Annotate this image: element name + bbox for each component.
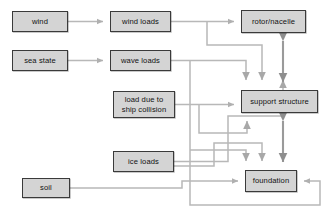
- node-ship-collision[interactable]: load due to ship collision: [113, 91, 175, 118]
- node-foundation-label: foundation: [251, 176, 291, 185]
- edge-wave-loads-drop-foundation: [190, 150, 246, 161]
- node-ice-loads[interactable]: ice loads: [113, 151, 174, 172]
- edge-ship-collision-to-foundation: [199, 105, 247, 133]
- edge-ice-loads-to-foundation: [174, 143, 262, 166]
- node-ship-collision-label: load due to ship collision: [120, 95, 168, 113]
- node-support-structure[interactable]: support structure: [241, 90, 318, 113]
- node-ice-loads-label: ice loads: [126, 157, 161, 166]
- node-rotor-nacelle[interactable]: rotor/nacelle: [241, 10, 306, 33]
- load-flow-diagram: wind wind loads rotor/nacelle sea state …: [0, 0, 332, 216]
- node-soil[interactable]: soil: [22, 178, 70, 198]
- node-support-structure-label: support structure: [248, 97, 311, 106]
- edge-soil-to-foundation: [70, 181, 238, 188]
- node-foundation[interactable]: foundation: [245, 170, 297, 192]
- node-rotor-nacelle-label: rotor/nacelle: [250, 17, 297, 26]
- node-sea-state[interactable]: sea state: [12, 50, 68, 71]
- node-wind-loads[interactable]: wind loads: [110, 11, 171, 32]
- node-wave-loads[interactable]: wave loads: [110, 50, 171, 71]
- edge-wave-loads-to-support-structure: [171, 61, 246, 81]
- node-wind-label: wind: [30, 17, 50, 26]
- node-soil-label: soil: [38, 183, 54, 192]
- node-wind-loads-label: wind loads: [120, 17, 161, 26]
- node-wave-loads-label: wave loads: [119, 56, 162, 65]
- node-wind[interactable]: wind: [12, 11, 68, 32]
- node-sea-state-label: sea state: [22, 56, 58, 65]
